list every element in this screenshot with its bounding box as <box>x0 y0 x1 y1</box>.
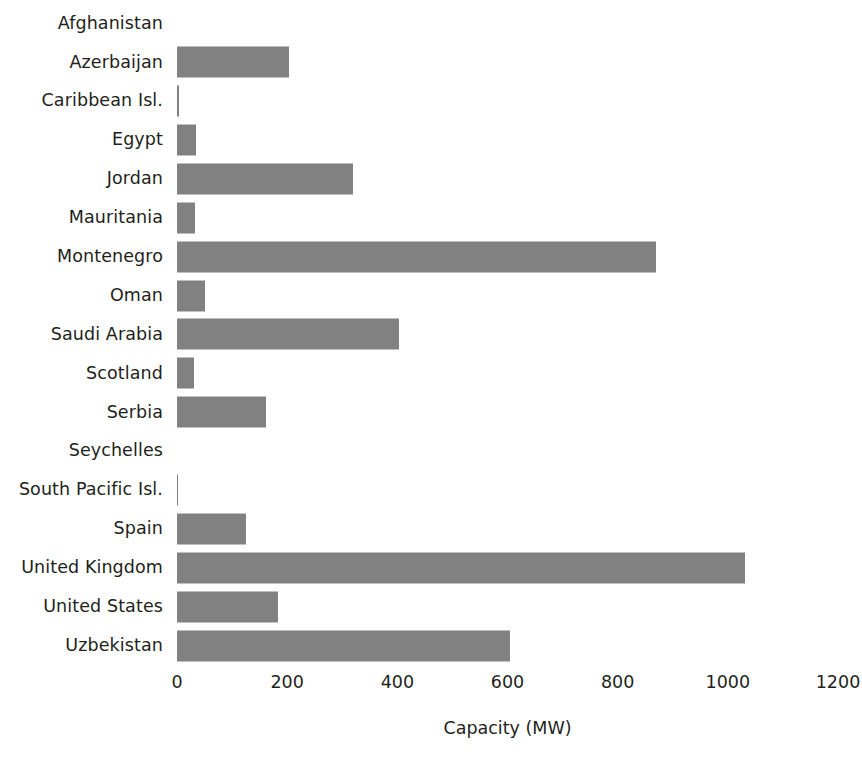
bar-track <box>177 198 838 237</box>
x-tick-label: 0 <box>171 672 182 693</box>
bar-track <box>177 121 838 160</box>
bar-track <box>177 509 838 548</box>
chart-row: Uzbekistan <box>0 626 862 665</box>
chart-row: Seychelles <box>0 432 862 471</box>
bar-track <box>177 626 838 665</box>
category-label: South Pacific Isl. <box>0 481 163 499</box>
category-label: United Kingdom <box>0 559 163 577</box>
chart-row: Caribbean Isl. <box>0 82 862 121</box>
bar-track <box>177 548 838 587</box>
bar-track <box>177 471 838 510</box>
bar-track <box>177 354 838 393</box>
category-label: Caribbean Isl. <box>0 92 163 110</box>
x-tick-label: 1200 <box>816 672 861 693</box>
bar-track <box>177 82 838 121</box>
category-label: Montenegro <box>0 248 163 266</box>
bar <box>177 202 195 233</box>
x-tick-label: 1000 <box>706 672 751 693</box>
category-label: Afghanistan <box>0 15 163 33</box>
category-label: United States <box>0 598 163 616</box>
x-tick-label: 200 <box>270 672 303 693</box>
chart-row: Serbia <box>0 393 862 432</box>
bar <box>177 319 399 350</box>
x-axis-line <box>177 665 838 666</box>
category-label: Serbia <box>0 404 163 422</box>
chart-row: Saudi Arabia <box>0 315 862 354</box>
category-label: Uzbekistan <box>0 637 163 655</box>
category-label: Saudi Arabia <box>0 326 163 344</box>
chart-row: Afghanistan <box>0 4 862 43</box>
bar <box>177 513 246 544</box>
bar <box>177 552 745 583</box>
chart-row: Egypt <box>0 121 862 160</box>
x-tick-label: 600 <box>491 672 524 693</box>
chart-rows: AfghanistanAzerbaijanCaribbean Isl.Egypt… <box>0 0 862 661</box>
category-label: Egypt <box>0 131 163 149</box>
category-label: Spain <box>0 520 163 538</box>
category-label: Azerbaijan <box>0 54 163 72</box>
bar <box>177 47 289 78</box>
chart-row: Mauritania <box>0 198 862 237</box>
bar <box>177 475 178 506</box>
bar-track <box>177 315 838 354</box>
chart-row: Azerbaijan <box>0 43 862 82</box>
bar <box>177 358 194 389</box>
category-label: Oman <box>0 287 163 305</box>
bar-track <box>177 43 838 82</box>
capacity-bar-chart: AfghanistanAzerbaijanCaribbean Isl.Egypt… <box>0 0 862 757</box>
chart-row: United Kingdom <box>0 548 862 587</box>
chart-row: United States <box>0 587 862 626</box>
chart-row: Jordan <box>0 160 862 199</box>
bar <box>177 280 205 311</box>
bar-track <box>177 160 838 199</box>
bar <box>177 125 196 156</box>
category-label: Seychelles <box>0 442 163 460</box>
chart-row: South Pacific Isl. <box>0 471 862 510</box>
chart-row: Oman <box>0 276 862 315</box>
chart-row: Montenegro <box>0 237 862 276</box>
x-tick-label: 400 <box>381 672 414 693</box>
bar <box>177 86 179 117</box>
bar-track <box>177 393 838 432</box>
bar-track <box>177 587 838 626</box>
x-axis-title: Capacity (MW) <box>177 718 838 738</box>
chart-row: Scotland <box>0 354 862 393</box>
bar <box>177 163 353 194</box>
x-axis-ticks: 020040060080010001200 <box>0 672 862 698</box>
bar <box>177 630 510 661</box>
bar-track <box>177 237 838 276</box>
bar-track <box>177 276 838 315</box>
category-label: Mauritania <box>0 209 163 227</box>
x-tick-label: 800 <box>601 672 634 693</box>
bar-track <box>177 4 838 43</box>
bar <box>177 241 656 272</box>
bar <box>177 591 278 622</box>
bar <box>177 397 266 428</box>
chart-row: Spain <box>0 509 862 548</box>
bar-track <box>177 432 838 471</box>
category-label: Scotland <box>0 365 163 383</box>
category-label: Jordan <box>0 170 163 188</box>
